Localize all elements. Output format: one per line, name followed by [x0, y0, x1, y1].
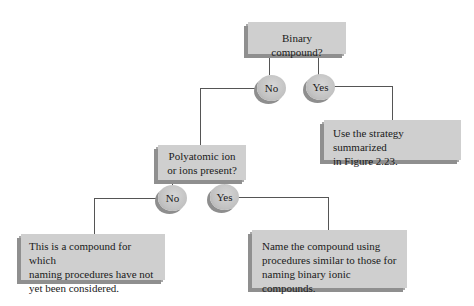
connector-q1-no-horizontal [200, 88, 257, 89]
answer-no-circle: No [158, 185, 187, 211]
answer-no-circle: No [257, 75, 286, 101]
result-line-3: naming binary ionic compounds. [262, 267, 397, 295]
connector-q1-yes-vertical [392, 86, 393, 120]
decision-label: Binary compound? [271, 32, 322, 58]
connector-q2-yes-horizontal [236, 197, 328, 198]
result-box-not-considered: This is a compound for which naming proc… [21, 234, 165, 280]
decision-box-polyatomic: Polyatomic ion or ions present? [158, 145, 246, 180]
decision-line-2: or ions present? [162, 163, 242, 177]
answer-no-label: No [166, 192, 179, 204]
result-line-1: This is a compound for which [29, 239, 157, 267]
connector-q1-no-vertical [200, 88, 201, 145]
decision-box-binary-compound: Binary compound? [248, 22, 346, 54]
result-line-2: naming procedures have not [29, 267, 157, 281]
answer-yes-circle: Yes [306, 74, 335, 100]
answer-yes-label: Yes [312, 81, 328, 93]
result-line-2: procedures similar to those for [262, 253, 397, 267]
result-box-use-strategy: Use the strategy summarized in Figure 2.… [324, 120, 461, 160]
result-line-1: Name the compound using [262, 239, 397, 253]
decision-line-1: Polyatomic ion [162, 149, 242, 163]
connector-q2-no-horizontal [94, 198, 158, 199]
result-line-2: in Figure 2.23. [333, 154, 452, 168]
answer-yes-label: Yes [216, 191, 232, 203]
result-box-name-compound: Name the compound using procedures simil… [252, 230, 407, 288]
answer-no-label: No [265, 82, 278, 94]
result-line-1: Use the strategy summarized [333, 126, 452, 154]
connector-q1-yes-horizontal [334, 86, 393, 87]
connector-q2-yes-vertical [328, 197, 329, 230]
connector-q2-no-vertical [94, 198, 95, 234]
answer-yes-circle: Yes [210, 184, 239, 210]
connector-q1-no [269, 55, 270, 75]
result-line-3: yet been considered. [29, 281, 157, 295]
